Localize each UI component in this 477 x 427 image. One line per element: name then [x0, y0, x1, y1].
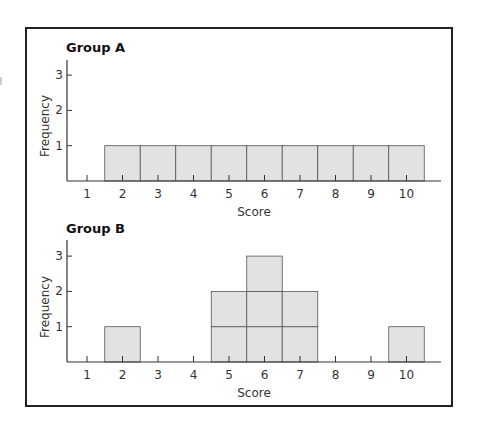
bar-box-score-6: [247, 256, 283, 291]
y-tick-label: 3: [55, 68, 63, 82]
x-tick-label: 7: [296, 187, 304, 201]
y-tick-label: 2: [55, 284, 63, 298]
x-tick-label: 1: [83, 368, 91, 382]
x-tick-label: 6: [261, 368, 269, 382]
x-tick-label: 2: [119, 368, 127, 382]
x-tick-label: 10: [399, 187, 414, 201]
chart-title-group-a: Group A: [66, 40, 125, 55]
x-tick-label: 9: [367, 368, 375, 382]
x-tick-label: 4: [190, 368, 198, 382]
x-tick-label: 4: [190, 187, 198, 201]
bar-box-score-6: [247, 291, 283, 326]
x-tick-label: 1: [83, 187, 91, 201]
x-tick-label: 2: [119, 187, 127, 201]
histogram-figure: Group A12312345678910ScoreFrequencyGroup…: [0, 0, 477, 427]
x-axis-label: Score: [237, 205, 271, 219]
x-tick-label: 9: [367, 187, 375, 201]
x-tick-label: 6: [261, 187, 269, 201]
bar-box-score-7: [282, 291, 318, 326]
x-tick-label: 8: [332, 368, 340, 382]
x-tick-label: 5: [225, 187, 233, 201]
y-axis-label: Frequency: [38, 95, 52, 157]
y-tick-label: 1: [55, 139, 63, 153]
x-tick-label: 10: [399, 368, 414, 382]
x-axis-label: Score: [237, 386, 271, 400]
chart-title-group-b: Group B: [66, 221, 125, 236]
y-tick-label: 3: [55, 249, 63, 263]
y-axis-label: Frequency: [38, 276, 52, 338]
x-tick-label: 8: [332, 187, 340, 201]
y-tick-label: 1: [55, 320, 63, 334]
x-tick-label: 7: [296, 368, 304, 382]
x-tick-label: 5: [225, 368, 233, 382]
x-tick-label: 3: [154, 187, 162, 201]
bar-box-score-5: [211, 291, 247, 326]
y-tick-label: 2: [55, 103, 63, 117]
x-tick-label: 3: [154, 368, 162, 382]
